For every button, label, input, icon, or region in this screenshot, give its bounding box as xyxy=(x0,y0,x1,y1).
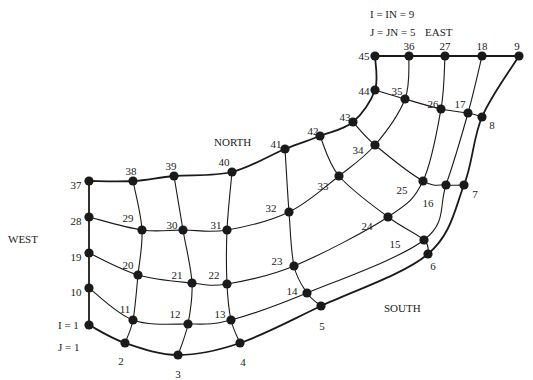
node-label-30: 30 xyxy=(167,219,179,231)
mesh-node-21 xyxy=(187,278,196,287)
mesh-line-i7 xyxy=(353,122,464,185)
node-label-25: 25 xyxy=(397,184,409,196)
node-label-12: 12 xyxy=(170,308,181,320)
mesh-node-9 xyxy=(514,51,523,60)
node-label-7: 7 xyxy=(472,188,478,200)
mesh-node-23 xyxy=(289,261,298,270)
node-label-2: 2 xyxy=(118,355,124,367)
mesh-line-j2 xyxy=(89,56,482,324)
node-label-32: 32 xyxy=(266,202,277,214)
node-label-26: 26 xyxy=(428,98,440,110)
mesh-node-14 xyxy=(302,288,311,297)
node-label-10: 10 xyxy=(71,286,83,298)
region-label-north: NORTH xyxy=(214,136,251,148)
mesh-node-12 xyxy=(183,319,192,328)
title-line-in: I = IN = 9 xyxy=(370,8,415,20)
title-line-jn: J = JN = 5 xyxy=(370,26,416,38)
node-label-14: 14 xyxy=(287,285,299,297)
mesh-node-44 xyxy=(370,85,379,94)
mesh-node-15 xyxy=(419,235,428,244)
node-label-11: 11 xyxy=(120,303,131,315)
node-label-43: 43 xyxy=(340,111,352,123)
node-label-45: 45 xyxy=(359,50,371,62)
node-label-9: 9 xyxy=(514,40,520,52)
node-label-3: 3 xyxy=(175,368,181,380)
mesh-node-27 xyxy=(440,51,449,60)
mesh-node-37 xyxy=(84,176,93,185)
mesh-node-1 xyxy=(84,320,93,329)
region-label-south: SOUTH xyxy=(384,302,421,314)
mesh-node-25 xyxy=(418,176,427,185)
node-label-13: 13 xyxy=(215,308,227,320)
node-label-34: 34 xyxy=(353,144,365,156)
region-label-east: EAST xyxy=(425,26,453,38)
node-label-37: 37 xyxy=(71,179,83,191)
mesh-node-4 xyxy=(235,338,244,347)
mesh-node-19 xyxy=(84,248,93,257)
mesh-node-22 xyxy=(222,279,231,288)
mesh-node-39 xyxy=(169,171,178,180)
mesh-node-7 xyxy=(459,180,468,189)
mesh-node-33 xyxy=(334,171,343,180)
mesh-node-6 xyxy=(423,249,432,258)
node-label-23: 23 xyxy=(272,255,284,267)
mesh-node-20 xyxy=(133,270,142,279)
mesh-node-8 xyxy=(477,112,486,121)
node-label-4: 4 xyxy=(240,356,246,368)
node-labels: 2345678910111213141516171819202122232425… xyxy=(71,40,521,380)
node-label-17: 17 xyxy=(455,98,467,110)
mesh-node-2 xyxy=(120,338,129,347)
mesh-node-32 xyxy=(284,207,293,216)
mesh-node-31 xyxy=(222,225,231,234)
mesh-node-29 xyxy=(137,225,146,234)
finite-difference-mesh-diagram: 2345678910111213141516171819202122232425… xyxy=(0,0,533,380)
mesh-node-30 xyxy=(178,225,187,234)
node-label-39: 39 xyxy=(166,160,178,172)
mesh-node-45 xyxy=(370,51,379,60)
node-label-44: 44 xyxy=(359,85,371,97)
node-label-24: 24 xyxy=(362,220,374,232)
mesh-node-36 xyxy=(404,51,413,60)
mesh-node-13 xyxy=(226,315,235,324)
mesh-node-11 xyxy=(128,315,137,324)
node-label-5: 5 xyxy=(319,320,325,332)
node-label-22: 22 xyxy=(209,269,220,281)
mesh-node-24 xyxy=(383,212,392,221)
node-label-27: 27 xyxy=(440,40,452,52)
mesh-line-i6 xyxy=(320,136,428,254)
origin-label-j: J = 1 xyxy=(58,341,79,353)
mesh-node-16 xyxy=(441,180,450,189)
mesh-node-28 xyxy=(84,212,93,221)
node-label-18: 18 xyxy=(477,40,489,52)
node-label-31: 31 xyxy=(211,219,222,231)
mesh-node-3 xyxy=(173,350,182,359)
mesh-node-10 xyxy=(84,283,93,292)
node-label-42: 42 xyxy=(308,125,319,137)
node-label-35: 35 xyxy=(392,85,404,97)
node-label-29: 29 xyxy=(123,212,135,224)
node-label-38: 38 xyxy=(126,165,138,177)
node-label-19: 19 xyxy=(71,251,83,263)
mesh-line-i5 xyxy=(285,149,321,306)
mesh-node-18 xyxy=(477,51,486,60)
node-label-21: 21 xyxy=(172,269,183,281)
origin-label-i: I = 1 xyxy=(58,319,79,331)
mesh-node-38 xyxy=(128,176,137,185)
region-label-west: WEST xyxy=(8,233,38,245)
node-label-41: 41 xyxy=(271,138,282,150)
mesh-line-j5 xyxy=(89,56,377,181)
node-label-6: 6 xyxy=(430,260,436,272)
node-label-33: 33 xyxy=(318,180,330,192)
node-label-28: 28 xyxy=(71,215,83,227)
node-label-40: 40 xyxy=(219,156,231,168)
mesh-node-41 xyxy=(280,144,289,153)
node-label-20: 20 xyxy=(123,259,135,271)
mesh-node-40 xyxy=(227,167,236,176)
node-label-8: 8 xyxy=(489,119,495,131)
mesh-node-5 xyxy=(316,301,325,310)
mesh-node-34 xyxy=(370,140,379,149)
node-label-15: 15 xyxy=(390,238,402,250)
node-label-16: 16 xyxy=(423,197,435,209)
node-label-36: 36 xyxy=(404,40,416,52)
